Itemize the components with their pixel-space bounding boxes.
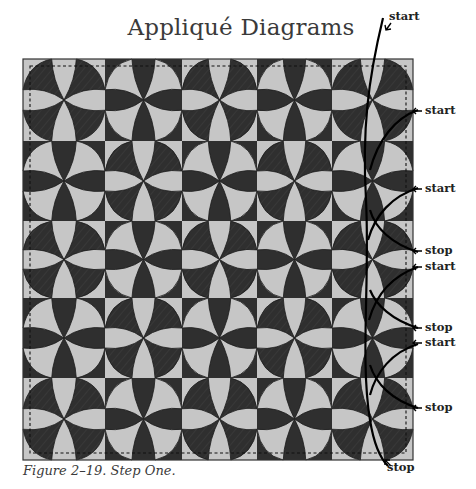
- quilt-block: [23, 378, 105, 460]
- quilt-block: [182, 298, 257, 378]
- stitch-label-stop: stop: [425, 400, 453, 414]
- stitch-label-start: start: [425, 259, 456, 273]
- quilt-blocks: [23, 59, 413, 460]
- stitch-label-stop: stop: [387, 460, 415, 474]
- figure-caption: Figure 2–19. Step One.: [23, 463, 176, 478]
- quilt-block: [257, 378, 332, 460]
- quilt-block: [105, 59, 182, 141]
- quilt-block: [332, 221, 413, 298]
- stitch-label-start: start: [425, 335, 456, 349]
- arrow-left-icon: [413, 108, 422, 114]
- quilt-block: [23, 221, 105, 298]
- quilt-block: [257, 59, 332, 141]
- quilt-block: [23, 141, 105, 221]
- quilt-block: [23, 59, 105, 141]
- quilt-block: [105, 141, 182, 221]
- quilt-block: [182, 221, 257, 298]
- arrow-down-left-icon: [385, 23, 391, 30]
- quilt-block: [23, 298, 105, 378]
- stitch-label-start: start: [389, 9, 420, 23]
- quilt-block: [105, 221, 182, 298]
- stitch-label-stop: stop: [425, 243, 453, 257]
- quilt-block: [257, 298, 332, 378]
- quilt-block: [332, 141, 413, 221]
- arrow-left-icon: [413, 264, 422, 270]
- quilt-block: [182, 378, 257, 460]
- quilt-block: [257, 221, 332, 298]
- stitch-label-stop: stop: [425, 320, 453, 334]
- arrow-left-icon: [413, 186, 422, 192]
- arrow-left-icon: [413, 325, 422, 331]
- quilt-block: [182, 141, 257, 221]
- arrow-left-icon: [413, 405, 422, 411]
- quilt-diagram: [0, 0, 476, 489]
- stitch-label-start: start: [425, 181, 456, 195]
- quilt-block: [257, 141, 332, 221]
- quilt-block: [105, 298, 182, 378]
- stitch-label-start: start: [425, 103, 456, 117]
- quilt-block: [182, 59, 257, 141]
- arrow-left-icon: [413, 248, 422, 254]
- quilt-block: [105, 378, 182, 460]
